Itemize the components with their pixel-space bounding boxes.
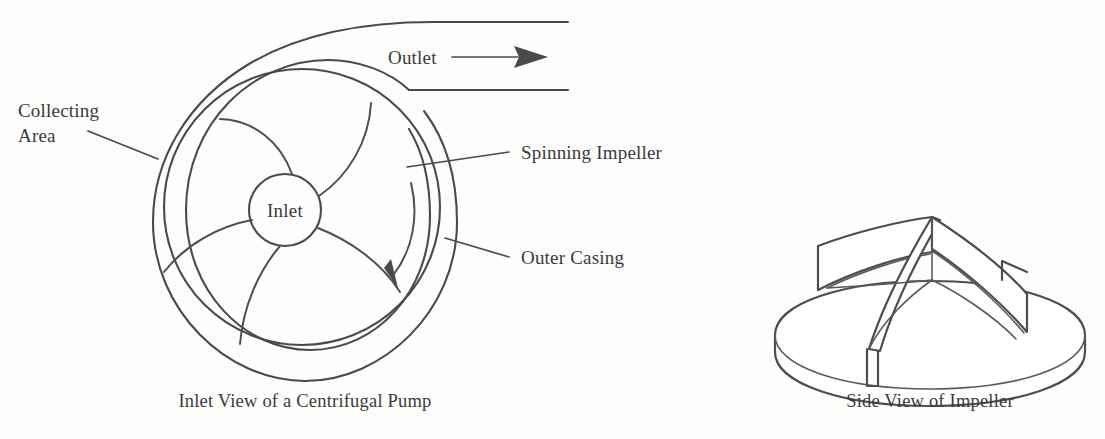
label-outer-casing: Outer Casing (521, 247, 624, 268)
outlet-flow-arrow (452, 46, 548, 68)
impeller-disc-base (775, 281, 1085, 406)
label-spinning-impeller: Spinning Impeller (521, 142, 663, 163)
label-collecting-area-line2: Area (18, 125, 56, 146)
leader-collecting-area (88, 131, 158, 159)
label-outlet: Outlet (388, 47, 437, 68)
caption-inlet-view: Inlet View of a Centrifugal Pump (178, 391, 431, 411)
side-view-panel: Side View of Impeller (775, 217, 1085, 411)
rotation-arrow (384, 183, 414, 288)
figure-page: Collecting Area Outlet Spinning Impeller… (0, 0, 1105, 439)
caption-side-view: Side View of Impeller (846, 391, 1014, 411)
impeller-vane (220, 119, 292, 174)
label-collecting-area-line1: Collecting (18, 100, 99, 121)
impeller-vane (319, 103, 371, 196)
inlet-view-panel: Collecting Area Outlet Spinning Impeller… (18, 22, 663, 411)
centrifugal-pump-figure: Collecting Area Outlet Spinning Impeller… (0, 0, 1105, 439)
label-inlet: Inlet (267, 200, 303, 221)
outer-casing-outline (153, 22, 568, 381)
impeller-vane (318, 228, 400, 292)
impeller-vanes (164, 103, 400, 344)
